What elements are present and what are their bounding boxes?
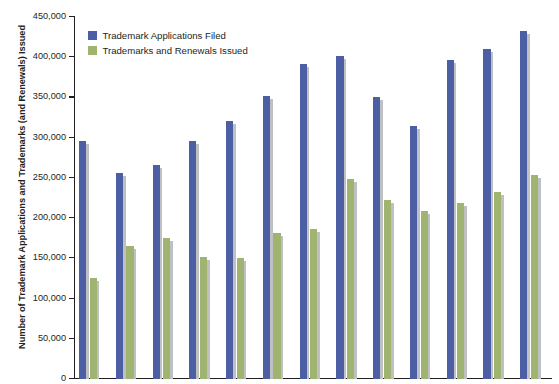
bar	[126, 246, 136, 379]
bar-shadow	[160, 168, 163, 379]
bar	[421, 211, 431, 379]
bar	[226, 121, 236, 379]
bar	[373, 97, 383, 379]
bar-shadow	[354, 182, 357, 379]
bar-shadow	[307, 67, 310, 379]
legend-swatch-icon	[88, 31, 97, 40]
trademark-bar-chart: Number of Trademark Applications and Tra…	[0, 0, 559, 384]
y-axis-tick-label: 350,000	[33, 91, 66, 101]
legend-item: Trademark Applications Filed	[88, 28, 248, 43]
y-axis-tick-mark	[69, 378, 75, 379]
legend-swatch-icon	[88, 46, 97, 55]
y-axis-tick-label: 150,000	[33, 252, 66, 262]
bar-fill	[457, 203, 464, 379]
y-axis-tick-mark	[69, 16, 75, 17]
bar	[300, 64, 310, 379]
y-axis-tick-label: 200,000	[33, 212, 66, 222]
bar-shadow	[244, 261, 247, 379]
y-axis-tick-mark	[69, 298, 75, 299]
y-axis-tick-label: 450,000	[33, 11, 66, 21]
bar-shadow	[281, 236, 284, 379]
bar	[79, 141, 89, 379]
bar-fill	[226, 121, 233, 379]
bar-shadow	[270, 99, 273, 379]
bar-fill	[336, 56, 343, 379]
bar-fill	[126, 246, 133, 379]
bar-shadow	[344, 59, 347, 379]
bar-fill	[373, 97, 380, 379]
y-axis-line	[74, 17, 75, 379]
chart-legend: Trademark Applications FiledTrademarks a…	[88, 28, 248, 58]
bar-shadow	[86, 144, 89, 379]
y-axis-tick-mark	[69, 338, 75, 339]
bar	[153, 165, 163, 379]
bar-shadow	[464, 206, 467, 379]
y-axis-tick-mark	[69, 217, 75, 218]
bar-shadow	[491, 52, 494, 379]
bar	[520, 31, 530, 379]
bar-fill	[200, 257, 207, 379]
bar-fill	[153, 165, 160, 379]
bar-fill	[520, 31, 527, 379]
bar-fill	[263, 96, 270, 379]
bar-shadow	[417, 129, 420, 379]
bar-fill	[384, 200, 391, 379]
bar	[347, 179, 357, 379]
y-axis-tick-mark	[69, 257, 75, 258]
bar-fill	[300, 64, 307, 379]
bar	[90, 278, 100, 379]
bar-shadow	[123, 176, 126, 379]
bar	[163, 238, 173, 379]
bar-shadow	[207, 260, 210, 379]
bar	[410, 126, 420, 379]
y-axis-tick-label: 50,000	[38, 333, 66, 343]
bar-fill	[347, 179, 354, 379]
bar	[200, 257, 210, 379]
y-axis-tick-label: 100,000	[33, 293, 66, 303]
bar-shadow	[454, 63, 457, 379]
bar-fill	[189, 141, 196, 379]
bar-fill	[79, 141, 86, 379]
y-axis-tick-label: 250,000	[33, 172, 66, 182]
bar-fill	[447, 60, 454, 379]
bar	[263, 96, 273, 379]
bar-shadow	[380, 100, 383, 379]
bar-fill	[310, 229, 317, 379]
bar-shadow	[196, 144, 199, 379]
bar-fill	[483, 49, 490, 379]
bar-shadow	[391, 203, 394, 379]
bar-shadow	[501, 195, 504, 379]
bar	[273, 233, 283, 379]
bar-fill	[421, 211, 428, 379]
bar	[494, 192, 504, 379]
bar	[189, 141, 199, 379]
bar	[336, 56, 346, 379]
plot-area: 050,000100,000150,000200,000250,000300,0…	[74, 17, 552, 379]
bar	[384, 200, 394, 379]
bar-shadow	[428, 214, 431, 379]
bar-fill	[163, 238, 170, 379]
bar	[116, 173, 126, 379]
bar-shadow	[317, 232, 320, 379]
y-axis-title: Number of Trademark Applications and Tra…	[17, 1, 27, 373]
bar-fill	[90, 278, 97, 379]
bar-shadow	[97, 281, 100, 379]
bar	[483, 49, 493, 379]
bar	[447, 60, 457, 379]
bar	[237, 258, 247, 379]
bar-shadow	[527, 34, 530, 379]
bar-fill	[273, 233, 280, 379]
legend-label: Trademarks and Renewals Issued	[103, 45, 248, 56]
bar-fill	[116, 173, 123, 379]
y-axis-tick-mark	[69, 177, 75, 178]
bar	[310, 229, 320, 379]
bar-fill	[531, 175, 538, 379]
y-axis-tick-label: 300,000	[33, 132, 66, 142]
y-axis-tick-mark	[69, 137, 75, 138]
y-axis-tick-mark	[69, 56, 75, 57]
y-axis-tick-label: 0	[61, 373, 66, 383]
legend-label: Trademark Applications Filed	[103, 30, 226, 41]
legend-item: Trademarks and Renewals Issued	[88, 43, 248, 58]
bar-shadow	[233, 124, 236, 379]
bar-shadow	[538, 178, 541, 379]
